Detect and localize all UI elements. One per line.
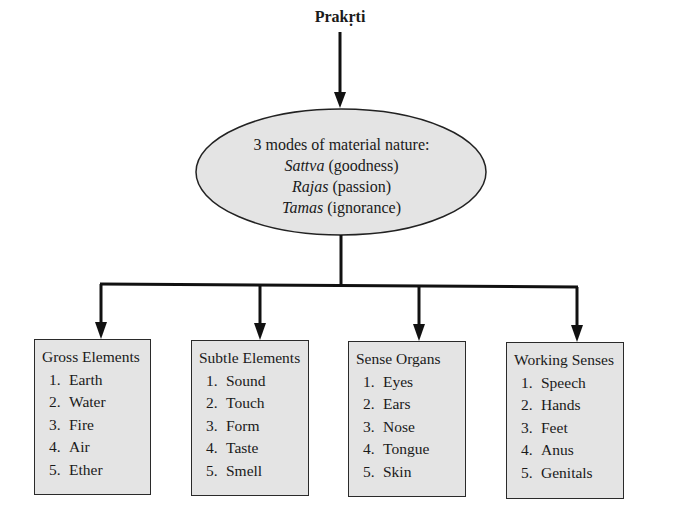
list-item: 3.Feet <box>507 417 623 440</box>
list-item: 4.Taste <box>192 437 308 460</box>
modes-node: 3 modes of material nature: Sattva (good… <box>196 134 487 218</box>
list-item: 5.Smell <box>192 460 308 483</box>
mode-item: Tamas (ignorance) <box>196 197 487 218</box>
list-item: 5.Ether <box>35 459 150 482</box>
mode-item: Sattva (goodness) <box>196 155 487 176</box>
arrowhead-icon <box>95 322 107 339</box>
arrowhead-icon <box>254 323 266 340</box>
list-item: 2.Hands <box>507 394 623 417</box>
arrowhead-icon <box>413 324 425 341</box>
arrowhead-icon <box>334 92 346 108</box>
list-item: 1.Eyes <box>349 371 465 394</box>
list-item: 4.Tongue <box>349 438 465 461</box>
list-item: 1.Earth <box>35 369 150 392</box>
category-title: Subtle Elements <box>192 341 308 370</box>
root-node-prakrti: Prakṛti <box>290 8 390 26</box>
category-gross-elements: Gross Elements 1.Earth 2.Water 3.Fire 4.… <box>34 339 151 495</box>
list-item: 5.Skin <box>349 461 465 484</box>
list-item: 1.Sound <box>192 370 308 393</box>
category-title: Gross Elements <box>35 340 150 369</box>
list-item: 2.Ears <box>349 393 465 416</box>
category-subtle-elements: Subtle Elements 1.Sound 2.Touch 3.Form 4… <box>191 340 309 496</box>
list-item: 4.Anus <box>507 439 623 462</box>
list-item: 1.Speech <box>507 372 623 395</box>
arrowhead-icon <box>571 325 583 342</box>
list-item: 3.Fire <box>35 414 150 437</box>
category-sense-organs: Sense Organs 1.Eyes 2.Ears 3.Nose 4.Tong… <box>348 341 466 497</box>
list-item: 4.Air <box>35 436 150 459</box>
list-item: 3.Nose <box>349 416 465 439</box>
category-working-senses: Working Senses 1.Speech 2.Hands 3.Feet 4… <box>506 342 624 499</box>
mode-item: Rajas (passion) <box>196 176 487 197</box>
list-item: 3.Form <box>192 415 308 438</box>
modes-title: 3 modes of material nature: <box>196 134 487 155</box>
list-item: 2.Water <box>35 391 150 414</box>
category-title: Sense Organs <box>349 342 465 371</box>
category-title: Working Senses <box>507 343 623 372</box>
list-item: 2.Touch <box>192 392 308 415</box>
list-item: 5.Genitals <box>507 462 623 485</box>
